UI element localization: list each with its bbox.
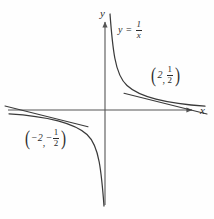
tangent-line-positive [124,93,207,114]
function-graph-figure: y x y = 1 x ( 2 , 1 2 ) [0,0,214,219]
tangent-line-negative [5,106,88,127]
close-paren: ) [61,130,66,146]
point-negative-group: ( − 2 , − 1 2 ) [24,128,67,148]
equation-denominator: x [136,31,142,41]
point-positive-y-fraction: 1 2 [166,65,174,85]
point-positive-group: ( 2 , 1 2 ) [150,65,181,85]
equation-fraction: 1 x [135,20,143,40]
point-negative-y-num: 1 [53,128,60,138]
x-axis-label: x [200,105,205,116]
equation-equals-sign: = [124,25,133,35]
point-label-negative: ( − 2 , − 1 2 ) [24,128,67,148]
point-negative-inner: − 2 , − 1 2 [31,128,60,148]
point-positive-y-den: 2 [167,76,174,86]
point-negative-y-den: 2 [53,139,60,149]
point-label-positive: ( 2 , 1 2 ) [150,65,181,85]
open-paren: ( [151,67,156,83]
equation-lhs: y [118,25,122,35]
equation-numerator: 1 [136,20,143,30]
y-axis-label: y [100,8,105,19]
point-negative-y-fraction: 1 2 [52,128,60,148]
point-positive-inner: 2 , 1 2 [157,65,174,85]
equation-label: y = 1 x [118,20,143,40]
point-positive-y-num: 1 [167,65,174,75]
open-paren: ( [25,130,30,146]
close-paren: ) [175,67,180,83]
graph-canvas [0,0,214,219]
